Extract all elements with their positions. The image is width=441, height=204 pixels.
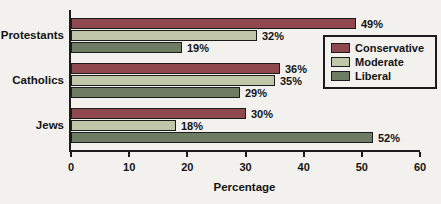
legend-item-moderate: Moderate <box>331 55 430 69</box>
legend-item-liberal: Liberal <box>331 69 430 83</box>
bar-conservative-protestants <box>71 18 356 29</box>
legend-swatch-icon <box>331 71 350 81</box>
bar-liberal-jews <box>71 132 373 143</box>
x-tick-mark <box>303 152 305 157</box>
value-label: 30% <box>251 109 273 120</box>
category-label: Protestants <box>0 28 64 42</box>
x-tick-label: 40 <box>289 161 319 173</box>
x-tick-label: 0 <box>56 161 86 173</box>
x-tick-mark <box>186 152 188 157</box>
bar-chart-figure: 49%32%19%36%35%29%30%18%52% Percentage C… <box>0 0 441 204</box>
legend-label: Liberal <box>355 70 391 82</box>
value-label: 35% <box>280 76 302 87</box>
bar-liberal-protestants <box>71 42 182 53</box>
x-tick-label: 50 <box>347 161 377 173</box>
x-tick-mark <box>70 152 72 157</box>
x-tick-label: 20 <box>172 161 202 173</box>
x-tick-mark <box>419 152 421 157</box>
legend-label: Moderate <box>355 56 404 68</box>
legend-label: Conservative <box>355 42 424 54</box>
x-tick-label: 10 <box>114 161 144 173</box>
x-axis-label: Percentage <box>69 181 420 193</box>
x-tick-mark <box>128 152 130 157</box>
bar-moderate-jews <box>71 120 176 131</box>
value-label: 49% <box>361 19 383 30</box>
bar-moderate-protestants <box>71 30 257 41</box>
value-label: 36% <box>285 64 307 75</box>
legend-item-conservative: Conservative <box>331 41 430 55</box>
bar-conservative-jews <box>71 108 246 119</box>
legend-swatch-icon <box>331 57 350 67</box>
value-label: 18% <box>181 121 203 132</box>
category-label: Catholics <box>0 73 64 87</box>
value-label: 29% <box>245 88 267 99</box>
legend: ConservativeModerateLiberal <box>323 35 437 89</box>
x-tick-mark <box>245 152 247 157</box>
bar-moderate-catholics <box>71 75 275 86</box>
value-label: 52% <box>378 133 400 144</box>
bar-conservative-catholics <box>71 63 280 74</box>
category-label: Jews <box>0 118 64 132</box>
legend-swatch-icon <box>331 43 350 53</box>
value-label: 32% <box>262 31 284 42</box>
bar-liberal-catholics <box>71 87 240 98</box>
value-label: 19% <box>187 43 209 54</box>
x-tick-label: 60 <box>405 161 435 173</box>
x-tick-mark <box>361 152 363 157</box>
x-tick-label: 30 <box>231 161 261 173</box>
